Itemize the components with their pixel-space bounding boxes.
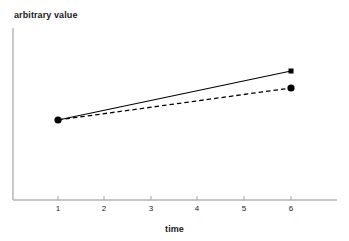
- series-solid-end-marker: [289, 69, 294, 74]
- series-solid-line: [58, 71, 291, 120]
- x-tick-label-2: 2: [94, 204, 114, 213]
- x-axis-label: time: [165, 224, 184, 234]
- series-dashed-line: [58, 88, 291, 120]
- series-dashed-end-marker: [287, 84, 294, 91]
- x-tick-label-4: 4: [187, 204, 207, 213]
- x-tick-label-1: 1: [48, 204, 68, 213]
- x-tick-label-5: 5: [234, 204, 254, 213]
- series-start-marker: [54, 116, 61, 123]
- x-tick-label-6: 6: [281, 204, 301, 213]
- x-axis-label-wrap: time: [0, 224, 349, 234]
- chart-figure: arbitrary value 1 2 3 4 5 6 time: [0, 0, 349, 241]
- x-tick-label-3: 3: [141, 204, 161, 213]
